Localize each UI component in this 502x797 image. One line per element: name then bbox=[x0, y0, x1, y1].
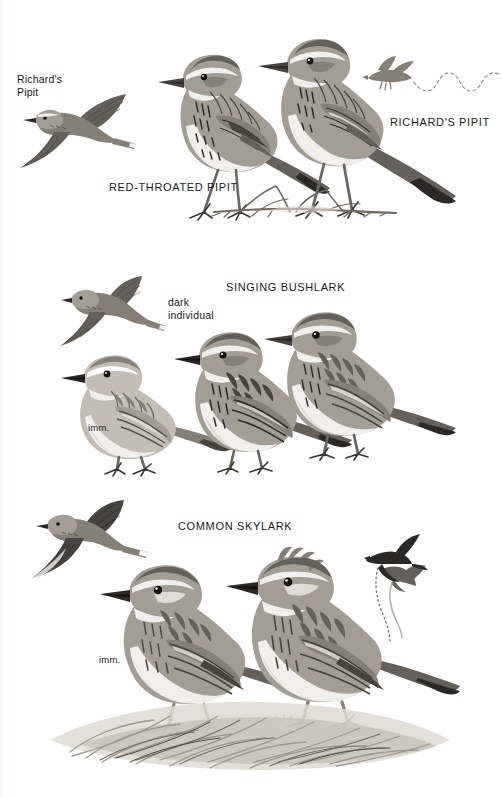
richards-pipit-display-flight-silhouette bbox=[358, 56, 502, 102]
singing-bushlark-in-flight bbox=[58, 276, 168, 348]
panel-skylark: COMMON SKYLARK imm. bbox=[0, 494, 502, 797]
skylark-immature-label: imm. bbox=[99, 654, 120, 666]
common-skylark-label: COMMON SKYLARK bbox=[178, 519, 292, 533]
panel-pipits: Richard's Pipit RED-THROATED PIPIT RICHA… bbox=[0, 0, 502, 262]
richards-pipit-label: RICHARD'S PIPIT bbox=[390, 115, 490, 129]
singing-bushlark-adult bbox=[258, 304, 463, 459]
richards-pipit-in-flight bbox=[18, 92, 138, 172]
panel-bushlark: SINGING BUSHLARK dark individual imm. bbox=[0, 262, 502, 494]
dark-individual-label: dark individual bbox=[168, 296, 214, 323]
bushlark-immature-label: imm. bbox=[88, 422, 109, 434]
field-guide-plate: Richard's Pipit RED-THROATED PIPIT RICHA… bbox=[0, 0, 502, 797]
red-throated-pipit-label: RED-THROATED PIPIT bbox=[109, 180, 238, 194]
common-skylark-song-flight-silhouette bbox=[362, 534, 434, 644]
singing-bushlark-label: SINGING BUSHLARK bbox=[226, 280, 345, 294]
richards-pipit-flight-label: Richard's Pipit bbox=[17, 73, 62, 100]
ground-twigs-pipits bbox=[210, 182, 400, 222]
